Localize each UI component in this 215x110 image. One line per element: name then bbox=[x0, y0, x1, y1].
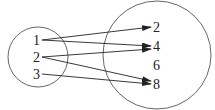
arrow-1-to-4 bbox=[42, 40, 151, 46]
domain-element-2: 2 bbox=[33, 50, 40, 65]
arrow-1-to-2 bbox=[42, 27, 151, 40]
codomain-element-4: 4 bbox=[153, 39, 160, 54]
domain-element-3: 3 bbox=[33, 67, 40, 82]
arrow-2-to-4 bbox=[42, 49, 151, 57]
codomain-element-2: 2 bbox=[153, 20, 160, 35]
mapping-diagram: 1 2 3 2 4 6 8 bbox=[0, 0, 215, 110]
codomain-element-6: 6 bbox=[153, 58, 160, 73]
arrow-2-to-8 bbox=[42, 57, 151, 81]
codomain-element-8: 8 bbox=[153, 77, 160, 92]
codomain-set-circle bbox=[103, 1, 211, 109]
codomain-labels: 2 4 6 8 bbox=[153, 20, 160, 92]
domain-labels: 1 2 3 bbox=[33, 33, 40, 82]
domain-element-1: 1 bbox=[33, 33, 40, 48]
